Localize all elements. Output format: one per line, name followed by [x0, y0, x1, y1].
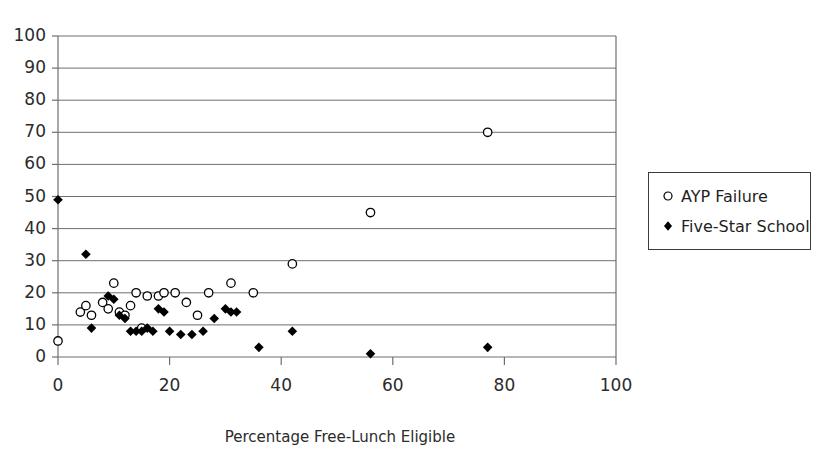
- y-tick-label: 60: [0, 153, 46, 173]
- y-tick-label: 70: [0, 121, 46, 141]
- y-tick-label: 20: [0, 282, 46, 302]
- x-axis-title: Percentage Free-Lunch Eligible: [120, 428, 560, 446]
- x-tick-label: 60: [353, 375, 433, 395]
- open-circle-icon: [659, 189, 677, 203]
- y-tick-label: 100: [0, 25, 46, 45]
- legend-label-ayp-failure: AYP Failure: [681, 187, 768, 206]
- y-tick-label: 50: [0, 186, 46, 206]
- y-tick-label: 0: [0, 346, 46, 366]
- axis-ticks: [52, 36, 616, 365]
- y-tick-label: 40: [0, 218, 46, 238]
- legend-label-five-star-school: Five-Star School: [681, 217, 810, 236]
- gridlines: [58, 36, 616, 357]
- legend-item-five-star-school: Five-Star School: [659, 211, 798, 241]
- scatter-chart-figure: 0102030405060708090100 020406080100 Perc…: [0, 0, 828, 474]
- x-tick-label: 0: [18, 375, 98, 395]
- x-tick-label: 80: [464, 375, 544, 395]
- filled-diamond-icon: [659, 219, 677, 233]
- y-tick-label: 30: [0, 250, 46, 270]
- y-tick-label: 80: [0, 89, 46, 109]
- legend-item-ayp-failure: AYP Failure: [659, 181, 798, 211]
- series-five-star-school-points: [53, 195, 492, 359]
- x-tick-label: 20: [130, 375, 210, 395]
- x-tick-label: 40: [241, 375, 321, 395]
- chart-legend: AYP Failure Five-Star School: [648, 172, 811, 250]
- x-tick-label: 100: [576, 375, 656, 395]
- y-tick-label: 10: [0, 314, 46, 334]
- y-tick-label: 90: [0, 57, 46, 77]
